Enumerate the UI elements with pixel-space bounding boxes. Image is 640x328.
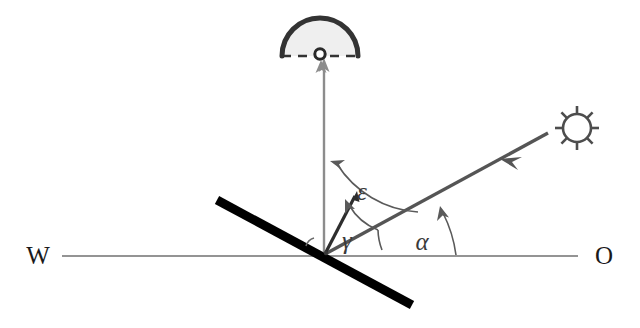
alpha-arc — [443, 213, 456, 255]
epsilon-arc-arrowhead-icon — [330, 160, 345, 170]
label-gamma: γ — [342, 227, 353, 254]
label-west: W — [26, 242, 50, 269]
right-angle-mark — [306, 238, 314, 246]
sun-disc-icon — [563, 114, 591, 142]
gamma-arc-tail — [378, 230, 382, 250]
vertex-point — [324, 251, 328, 255]
tilted-surface-line — [217, 200, 412, 305]
diagram-root: Solar incidence angle geometry on a tilt… — [0, 0, 640, 328]
label-alpha: α — [415, 228, 429, 255]
sun-rays-icon — [555, 106, 599, 150]
solar-ray-arrowhead-icon — [500, 157, 522, 170]
label-epsilon: ε — [357, 178, 367, 205]
alpha-arc-arrowhead-icon — [437, 206, 449, 221]
label-east: O — [595, 242, 613, 269]
solar-geometry-diagram: Solar incidence angle geometry on a tilt… — [0, 0, 640, 328]
dome-center-dot-icon — [315, 49, 325, 59]
